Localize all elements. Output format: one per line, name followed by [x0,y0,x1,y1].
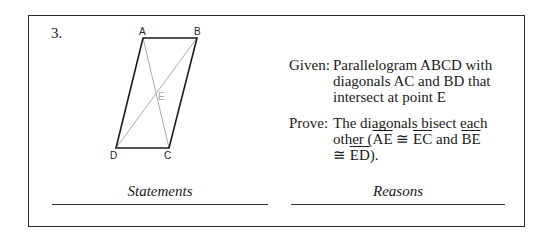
reasons-rule [291,204,505,205]
diagonal-bd [116,38,197,148]
segment-be: BE [461,131,480,147]
parallelogram-diagram: A B C D E [100,20,220,165]
vertex-b-label: B [194,26,201,37]
vertex-e-label: E [158,91,165,102]
segment-ec: EC [413,131,432,147]
given-line-2: diagonals AC and BD that [333,73,518,89]
given-text: Parallelogram ABCD with diagonals AC and… [333,57,518,105]
reasons-column-header: Reasons [291,183,505,200]
prove-text: The diagonals bisect each other (AE ≅ EC… [333,115,518,163]
prove-line-3: ≅ ED). [333,147,518,163]
vertex-d-label: D [110,150,117,161]
segment-ae: AE [373,131,393,147]
statements-rule [52,204,268,205]
prove-line-1: The diagonals bisect each [333,115,518,131]
given-label: Given: [289,57,330,73]
segment-ed: ED [350,147,370,163]
given-line-3: intersect at point E [333,89,518,105]
prove-line-2: other (AE ≅ EC and BE [333,131,518,147]
prove-label: Prove: [289,115,328,131]
statements-column-header: Statements [52,183,268,200]
given-line-1: Parallelogram ABCD with [333,57,518,73]
vertex-c-label: C [164,150,171,161]
vertex-a-label: A [139,26,146,37]
problem-number: 3. [51,25,62,42]
